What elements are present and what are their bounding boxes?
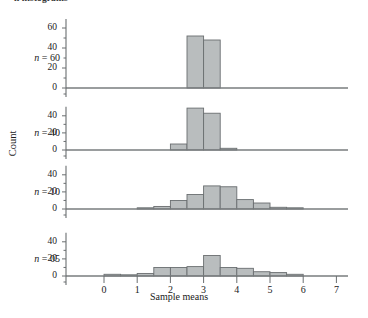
histogram-bar: [237, 268, 254, 276]
histogram-bar: [204, 40, 221, 88]
panel-label-0: n = 60: [8, 52, 60, 63]
histogram-bar: [154, 267, 171, 276]
histogram-bar: [170, 200, 187, 209]
panel-label-3: n = 05: [8, 253, 60, 264]
histogram-figure: n histograms Count Sample means 0204060n…: [0, 0, 368, 318]
x-tick-label: 3: [197, 285, 211, 295]
histogram-bar: [187, 36, 204, 88]
x-tick-label: 5: [263, 285, 277, 295]
panel-label-1: n = 40: [8, 127, 60, 138]
y-tick-label: 20: [39, 63, 57, 73]
y-tick-label: 0: [39, 271, 57, 281]
panel-3: [62, 233, 348, 285]
x-tick-label: 2: [163, 285, 177, 295]
histogram-bar: [220, 187, 237, 209]
x-tick-label: 7: [329, 285, 343, 295]
x-tick-label: 0: [97, 285, 111, 295]
panel-1: [62, 107, 348, 159]
histogram-bar: [187, 267, 204, 276]
histogram-bar: [253, 203, 270, 209]
x-tick-label: 4: [230, 285, 244, 295]
histogram-bar: [170, 267, 187, 276]
y-tick-label: 0: [39, 83, 57, 93]
y-tick-label: 40: [39, 111, 57, 121]
y-tick-label: 0: [39, 145, 57, 155]
panel-2: [62, 166, 348, 218]
y-tick-label: 40: [39, 170, 57, 180]
y-tick-label: 60: [39, 23, 57, 33]
panel-0: [62, 19, 348, 97]
y-tick-label: 0: [39, 204, 57, 214]
histogram-bar: [204, 186, 221, 209]
histogram-bar: [187, 194, 204, 209]
x-tick-label: 6: [296, 285, 310, 295]
histogram-bar: [237, 200, 254, 209]
panel-label-2: n = 10: [8, 186, 60, 197]
histogram-bar: [204, 255, 221, 276]
histogram-bar: [204, 113, 221, 150]
y-tick-label: 40: [39, 237, 57, 247]
histogram-bar: [220, 267, 237, 276]
histogram-bar: [170, 144, 187, 150]
x-tick-label: 1: [130, 285, 144, 295]
histogram-bar: [187, 108, 204, 150]
